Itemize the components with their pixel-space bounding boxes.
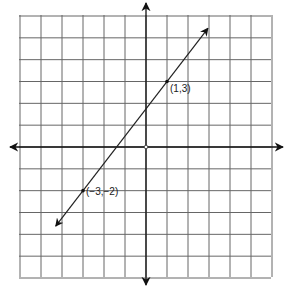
point-label-neg3-neg2: (−3,−2) bbox=[86, 187, 118, 197]
point-label-1-3: (1,3) bbox=[170, 84, 191, 94]
coordinate-plane bbox=[0, 0, 285, 287]
point-marker bbox=[165, 80, 169, 84]
plotted-line bbox=[56, 28, 208, 226]
point-marker bbox=[81, 189, 85, 193]
origin-marker bbox=[144, 145, 148, 149]
